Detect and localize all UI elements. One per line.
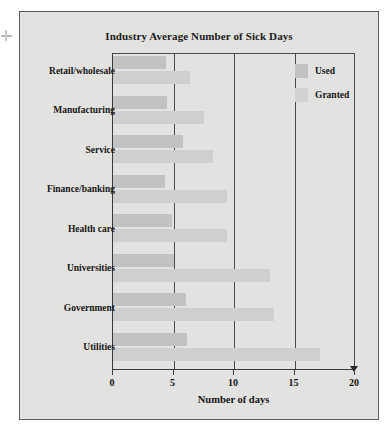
bar-used — [113, 254, 174, 267]
bar-row — [113, 291, 354, 331]
bar-granted — [113, 190, 227, 203]
x-tick-label: 15 — [279, 377, 309, 388]
category-label: Manufacturing — [0, 105, 115, 115]
legend-item: Granted — [295, 88, 349, 102]
bar-row — [113, 252, 354, 292]
bar-used — [113, 214, 172, 227]
legend-label: Granted — [315, 90, 349, 100]
figure-frame: Industry Average Number of Sick Days Use… — [19, 11, 379, 420]
chart-title: Industry Average Number of Sick Days — [20, 30, 378, 42]
x-tick-10 — [233, 370, 234, 375]
chart-legend: UsedGranted — [295, 64, 349, 112]
x-tick-label: 5 — [158, 377, 188, 388]
legend-label: Used — [315, 66, 335, 76]
category-label: Health care — [0, 224, 115, 234]
bar-used — [113, 56, 166, 69]
bar-row — [113, 212, 354, 252]
category-label: Service — [0, 145, 115, 155]
category-label: Finance/banking — [0, 184, 115, 194]
bar-granted — [113, 308, 274, 321]
x-tick-label: 10 — [218, 377, 248, 388]
x-tick-label: 0 — [97, 377, 127, 388]
bar-granted — [113, 229, 227, 242]
bar-used — [113, 96, 167, 109]
category-label: Government — [0, 303, 115, 313]
x-tick-5 — [173, 370, 174, 375]
bar-row — [113, 173, 354, 213]
bar-granted — [113, 269, 270, 282]
legend-item: Used — [295, 64, 349, 78]
bar-row — [113, 133, 354, 173]
bar-used — [113, 333, 187, 346]
x-tick-0 — [112, 370, 113, 375]
bar-granted — [113, 111, 204, 124]
bar-used — [113, 293, 186, 306]
category-label: Universities — [0, 263, 115, 273]
legend-swatch-used — [295, 64, 308, 78]
bar-granted — [113, 348, 320, 361]
x-tick-label: 20 — [339, 377, 369, 388]
bar-used — [113, 175, 165, 188]
x-tick-15 — [294, 370, 295, 375]
bar-granted — [113, 150, 213, 163]
scan-artifact-mark-vertical — [5, 30, 7, 41]
bar-granted — [113, 71, 190, 84]
legend-swatch-granted — [295, 88, 308, 102]
x-axis-label: Number of days — [112, 394, 355, 405]
bar-used — [113, 135, 183, 148]
x-axis: 05101520 Number of days — [112, 370, 355, 410]
bar-row — [113, 331, 354, 371]
x-tick-20 — [354, 370, 355, 375]
category-label: Retail/wholesale — [0, 66, 115, 76]
plot-area: UsedGranted — [112, 53, 355, 370]
category-label: Utilities — [0, 342, 115, 352]
